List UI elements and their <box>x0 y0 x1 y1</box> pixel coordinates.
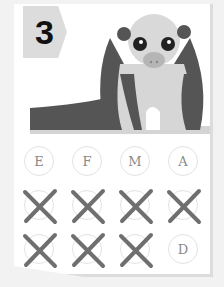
letter-label: E <box>34 154 44 169</box>
letter-cell-6[interactable] <box>72 190 102 220</box>
letter-cell-3[interactable]: M <box>120 146 150 176</box>
letter-cell-9[interactable] <box>24 234 54 264</box>
letter-cell-5[interactable] <box>24 190 54 220</box>
cross-mark-icon <box>20 186 60 226</box>
letter-cell-12[interactable]: D <box>168 234 198 264</box>
card-number-tag: 3 <box>23 6 67 58</box>
letter-cell-10[interactable] <box>72 234 102 264</box>
letter-cell-2[interactable]: F <box>72 146 102 176</box>
game-board: 3 E F M A D <box>0 0 224 287</box>
letter-label: M <box>128 154 141 169</box>
letter-label: D <box>178 242 188 257</box>
letter-label: F <box>82 154 91 169</box>
letter-cell-11[interactable] <box>120 234 150 264</box>
cross-mark-icon <box>116 186 156 226</box>
letter-grid: E F M A D <box>24 146 204 264</box>
cross-mark-icon <box>68 186 108 226</box>
letter-cell-8[interactable] <box>168 190 198 220</box>
cross-mark-icon <box>164 186 204 226</box>
letter-cell-1[interactable]: E <box>24 146 54 176</box>
letter-cell-7[interactable] <box>120 190 150 220</box>
letter-label: A <box>178 154 187 169</box>
letter-cell-4[interactable]: A <box>168 146 198 176</box>
card-number: 3 <box>35 15 54 49</box>
